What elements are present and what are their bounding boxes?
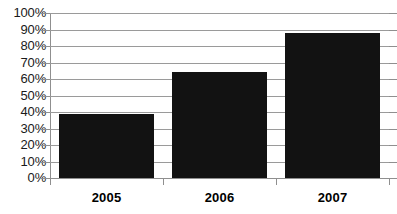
y-axis-tick	[41, 46, 50, 47]
y-axis-tick	[41, 63, 50, 64]
plot-area	[50, 13, 389, 178]
y-axis-tick-label: 60%	[2, 72, 46, 85]
y-axis-tick-right	[389, 96, 397, 97]
y-axis-tick-right	[389, 145, 397, 146]
bar	[285, 33, 380, 178]
y-axis-tick-label: 90%	[2, 23, 46, 36]
y-axis-tick-label: 70%	[2, 56, 46, 69]
y-axis-tick	[41, 112, 50, 113]
y-axis-tick	[41, 129, 50, 130]
bar-chart: 0%10%20%30%40%50%60%70%80%90%100% 200520…	[0, 0, 397, 214]
y-axis-tick-label: 100%	[2, 6, 46, 19]
y-axis-tick-right	[389, 79, 397, 80]
y-axis-tick-label: 40%	[2, 105, 46, 118]
y-axis-tick-label: 50%	[2, 89, 46, 102]
y-axis-tick	[41, 30, 50, 31]
y-axis-tick	[41, 178, 50, 179]
x-axis-tick	[163, 178, 164, 185]
x-axis-tick-label: 2005	[50, 190, 163, 205]
x-axis-tick-labels: 200520062007	[50, 190, 389, 210]
gridline	[50, 30, 389, 31]
y-axis-tick-right	[389, 46, 397, 47]
y-axis-tick-right	[389, 30, 397, 31]
y-axis-tick	[41, 162, 50, 163]
y-axis-tick	[41, 96, 50, 97]
y-axis-tick	[41, 13, 50, 14]
y-axis-tick-right	[389, 178, 397, 179]
x-axis-tick	[276, 178, 277, 185]
bar	[172, 72, 267, 178]
y-axis-tick-label: 20%	[2, 138, 46, 151]
y-axis-tick	[41, 145, 50, 146]
y-axis-tick-right	[389, 112, 397, 113]
x-axis-tick	[50, 178, 51, 185]
x-axis-tick	[389, 178, 390, 185]
gridline	[50, 13, 389, 14]
y-axis-tick	[41, 79, 50, 80]
gridline	[50, 178, 389, 179]
y-axis-tick-right	[389, 63, 397, 64]
y-axis-tick-right	[389, 162, 397, 163]
y-axis-tick-label: 80%	[2, 39, 46, 52]
y-axis-tick-label: 10%	[2, 155, 46, 168]
y-axis-tick-label: 30%	[2, 122, 46, 135]
x-axis-tick-label: 2006	[163, 190, 276, 205]
y-axis-tick-right	[389, 129, 397, 130]
x-axis-tick-label: 2007	[276, 190, 389, 205]
bar	[59, 114, 154, 178]
y-axis-tick-labels: 0%10%20%30%40%50%60%70%80%90%100%	[0, 13, 46, 178]
y-axis-tick-right	[389, 13, 397, 14]
y-axis-tick-label: 0%	[2, 171, 46, 184]
